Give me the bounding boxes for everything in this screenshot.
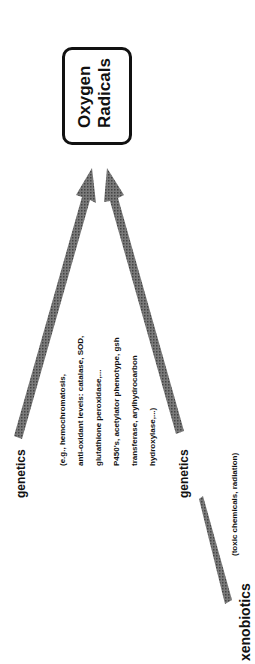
genetics-label-bottom: genetics — [177, 449, 191, 498]
xenobiotics-note: (toxic chemicals, radiation) — [226, 453, 244, 556]
title-line-1: Oxygen — [75, 58, 95, 128]
example-line: P450's, acetylator phenotype, gsh — [108, 336, 126, 466]
title-line-2: Radicals — [95, 58, 115, 128]
genetics-label-top: genetics — [14, 449, 28, 498]
oxygen-radicals-title: Oxygen Radicals — [75, 58, 115, 128]
example-line: hydroxylase,...) — [144, 336, 162, 466]
example-line: anti-oxidant levels: catalase, SOD, — [72, 336, 90, 466]
xenobiotics-label: xenobiotics — [237, 583, 253, 661]
examples-text: (e.g., hemochromatosis, anti-oxidant lev… — [54, 336, 162, 466]
example-line: transferase, arylhydrocarbon — [126, 336, 144, 466]
example-line: (e.g., hemochromatosis, — [54, 336, 72, 466]
example-line: glutathione peroxidase,... — [90, 336, 108, 466]
